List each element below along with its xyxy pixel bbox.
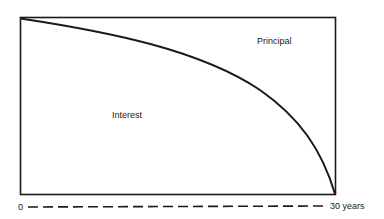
principal-label: Principal bbox=[257, 36, 292, 46]
axis-end-label: 30 years bbox=[330, 201, 365, 211]
time-axis-dashed-line bbox=[28, 206, 327, 207]
axis-start-label: 0 bbox=[18, 202, 23, 212]
amortization-diagram bbox=[0, 0, 384, 219]
interest-label: Interest bbox=[112, 110, 142, 120]
